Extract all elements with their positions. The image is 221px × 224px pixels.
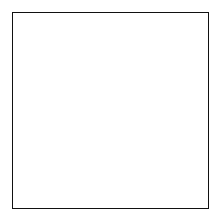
figure-root — [0, 0, 221, 224]
mesh-figure-svg — [0, 0, 221, 224]
figure-frame — [13, 13, 209, 209]
